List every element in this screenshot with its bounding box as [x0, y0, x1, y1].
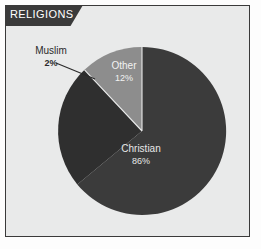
religions-pie-chart-figure: RELIGIONS Muslim 2% Other 12% Christian …	[0, 0, 261, 249]
slice-label-other-name: Other	[100, 60, 148, 71]
slice-label-other-percent: 12%	[100, 73, 148, 84]
slice-label-christian: Christian 86%	[103, 143, 179, 167]
slice-label-christian-name: Christian	[103, 143, 179, 154]
slice-label-muslim: Muslim 2%	[20, 45, 82, 69]
slice-label-christian-percent: 86%	[103, 156, 179, 167]
slice-label-other: Other 12%	[100, 60, 148, 84]
slice-label-muslim-name: Muslim	[20, 45, 82, 56]
pie-chart-graphic	[0, 0, 261, 249]
slice-label-muslim-percent: 2%	[20, 58, 82, 69]
page-title: RELIGIONS	[10, 8, 74, 21]
